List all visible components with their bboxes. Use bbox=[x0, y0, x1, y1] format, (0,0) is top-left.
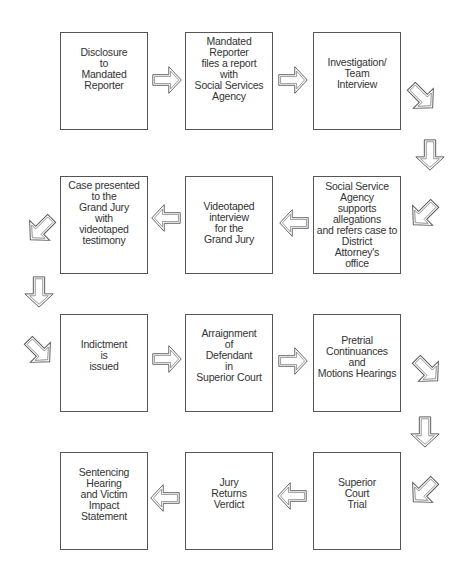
arrow-left-icon bbox=[149, 482, 181, 514]
step-label: Indictment is issued bbox=[61, 339, 147, 372]
step-label: Arraignment of Defendant in Superior Cou… bbox=[186, 328, 272, 383]
step-label: Social Service Agency supports allegatio… bbox=[314, 181, 400, 269]
arrow-right-icon bbox=[277, 345, 309, 377]
step-label: Case presented to the Grand Jury with vi… bbox=[61, 180, 147, 246]
arrow-down-left-icon bbox=[407, 197, 441, 231]
step-label: Jury Returns Verdict bbox=[186, 477, 272, 510]
arrow-down-icon bbox=[413, 137, 447, 173]
step-superior-court-trial-box: Superior Court Trial bbox=[313, 452, 401, 550]
step-label: Disclosure to Mandated Reporter bbox=[61, 47, 147, 91]
step-label: Pretrial Continuances and Motions Hearin… bbox=[314, 335, 400, 379]
step-label: Videotaped interview for the Grand Jury bbox=[186, 201, 272, 245]
step-indictment-box: Indictment is issued bbox=[60, 314, 148, 412]
step-label: Superior Court Trial bbox=[314, 477, 400, 510]
step-label: Investigation/ Team Interview bbox=[314, 57, 400, 90]
step-pretrial-box: Pretrial Continuances and Motions Hearin… bbox=[313, 314, 401, 412]
arrow-right-icon bbox=[277, 64, 309, 96]
step-case-presented-box: Case presented to the Grand Jury with vi… bbox=[60, 176, 148, 274]
step-investigation-box: Investigation/ Team Interview bbox=[313, 32, 401, 130]
arrow-left-icon bbox=[276, 480, 308, 512]
arrow-right-icon bbox=[151, 64, 183, 96]
step-mandated-reporter-files-box: Mandated Reporter files a report with So… bbox=[185, 32, 273, 130]
step-disclosure-box: Disclosure to Mandated Reporter bbox=[60, 32, 148, 130]
step-label: Sentencing Hearing and Victim Impact Sta… bbox=[61, 467, 147, 522]
arrow-left-icon bbox=[278, 207, 310, 239]
step-jury-verdict-box: Jury Returns Verdict bbox=[185, 452, 273, 550]
step-sentencing-box: Sentencing Hearing and Victim Impact Sta… bbox=[60, 452, 148, 550]
arrow-down-icon bbox=[408, 414, 442, 450]
step-social-service-supports-box: Social Service Agency supports allegatio… bbox=[313, 176, 401, 274]
arrow-left-icon bbox=[150, 202, 182, 234]
arrow-down-right-icon bbox=[22, 334, 56, 368]
arrow-down-right-icon bbox=[410, 353, 444, 387]
arrow-down-right-icon bbox=[405, 80, 439, 114]
arrow-down-left-icon bbox=[24, 212, 58, 246]
arrow-down-left-icon bbox=[407, 474, 441, 508]
step-videotaped-interview-box: Videotaped interview for the Grand Jury bbox=[185, 176, 273, 274]
step-arraignment-box: Arraignment of Defendant in Superior Cou… bbox=[185, 314, 273, 412]
arrow-right-icon bbox=[151, 343, 183, 375]
step-label: Mandated Reporter files a report with So… bbox=[186, 36, 272, 102]
arrow-down-icon bbox=[22, 274, 56, 310]
